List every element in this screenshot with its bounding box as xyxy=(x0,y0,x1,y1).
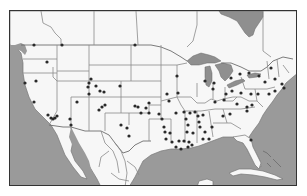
location-marker xyxy=(191,131,194,134)
location-marker xyxy=(282,86,285,89)
location-marker xyxy=(89,77,92,80)
location-marker xyxy=(212,81,215,84)
location-marker xyxy=(69,123,72,126)
location-marker xyxy=(267,92,270,95)
location-marker xyxy=(250,103,253,106)
location-marker xyxy=(182,139,185,142)
location-marker xyxy=(245,105,248,108)
location-marker xyxy=(198,125,201,128)
location-marker xyxy=(160,117,163,120)
location-marker xyxy=(133,104,136,107)
location-marker xyxy=(249,92,252,95)
location-marker xyxy=(133,43,136,46)
location-marker xyxy=(32,100,35,103)
location-marker xyxy=(186,123,189,126)
location-marker xyxy=(190,143,193,146)
location-marker xyxy=(45,60,48,63)
location-marker xyxy=(188,111,191,114)
location-marker xyxy=(179,147,182,150)
location-marker xyxy=(201,113,204,116)
location-marker xyxy=(119,123,122,126)
location-marker xyxy=(222,98,225,101)
location-marker xyxy=(235,102,238,105)
location-marker xyxy=(125,126,128,129)
location-marker xyxy=(165,92,168,95)
location-marker xyxy=(229,76,232,79)
location-marker xyxy=(213,100,216,103)
location-marker xyxy=(211,87,214,90)
location-marker xyxy=(193,110,196,113)
location-marker xyxy=(75,100,78,103)
location-marker xyxy=(55,114,58,117)
location-marker xyxy=(230,89,233,92)
location-marker xyxy=(182,110,185,113)
location-marker xyxy=(98,89,101,92)
location-marker xyxy=(280,82,283,85)
location-marker xyxy=(68,117,71,120)
location-marker xyxy=(228,112,231,115)
location-marker xyxy=(263,80,266,83)
location-marker xyxy=(147,111,150,114)
location-marker xyxy=(269,66,272,69)
location-marker xyxy=(60,43,63,46)
location-marker xyxy=(32,43,35,46)
location-marker xyxy=(174,145,177,148)
location-marker xyxy=(197,120,200,123)
location-marker xyxy=(187,140,190,143)
location-marker xyxy=(164,137,167,140)
location-marker xyxy=(221,114,224,117)
location-marker xyxy=(257,74,260,77)
location-marker xyxy=(239,91,242,94)
location-marker xyxy=(87,81,90,84)
location-marker xyxy=(23,81,26,84)
location-marker xyxy=(139,111,142,114)
location-marker xyxy=(127,134,130,137)
location-marker xyxy=(174,111,177,114)
location-marker xyxy=(34,79,37,82)
location-marker xyxy=(238,72,241,75)
location-marker xyxy=(184,117,187,120)
location-marker xyxy=(102,90,105,93)
location-marker xyxy=(147,101,150,104)
location-marker xyxy=(224,92,227,95)
location-marker xyxy=(167,99,170,102)
location-marker xyxy=(97,108,100,111)
location-marker xyxy=(86,85,89,88)
location-marker xyxy=(186,145,189,148)
location-marker xyxy=(207,137,210,140)
location-marker xyxy=(46,113,49,116)
location-marker xyxy=(118,84,121,87)
location-marker xyxy=(175,74,178,77)
location-marker xyxy=(256,92,259,95)
location-marker xyxy=(203,79,206,82)
location-marker xyxy=(168,131,171,134)
location-marker xyxy=(247,71,250,74)
location-marker xyxy=(177,139,180,142)
map-frame xyxy=(9,10,297,186)
location-marker xyxy=(103,103,106,106)
location-marker xyxy=(196,114,199,117)
location-marker xyxy=(170,140,173,143)
location-marker xyxy=(245,109,248,112)
location-marker xyxy=(100,105,103,108)
location-marker xyxy=(157,112,160,115)
location-marker xyxy=(136,105,139,108)
location-marker xyxy=(201,137,204,140)
location-marker xyxy=(203,130,206,133)
location-marker xyxy=(162,125,165,128)
location-marker xyxy=(87,92,90,95)
location-marker xyxy=(94,84,97,87)
location-marker xyxy=(249,138,252,141)
location-marker xyxy=(163,130,166,133)
location-marker xyxy=(273,89,276,92)
location-marker xyxy=(185,130,188,133)
location-marker xyxy=(176,91,179,94)
location-marker xyxy=(273,77,276,80)
location-marker xyxy=(210,125,213,128)
north-america-map xyxy=(10,11,297,186)
location-marker xyxy=(144,106,147,109)
